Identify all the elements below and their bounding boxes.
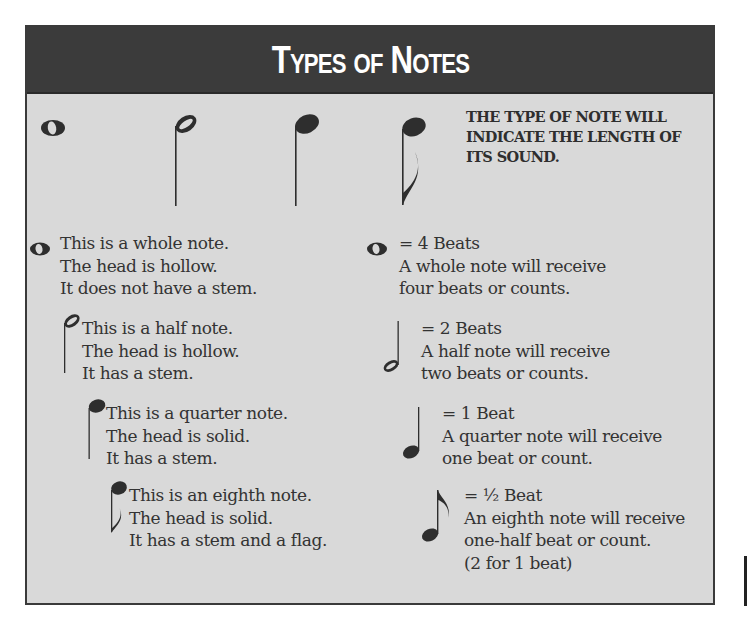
half-note-icon (383, 319, 403, 375)
whole-note-icon (40, 119, 66, 137)
half-note-value: = 2 Beats A half note will receive two b… (421, 317, 610, 385)
eighth-note-value: = ½ Beat An eighth note will receive one… (464, 484, 685, 574)
whole-note-value: = 4 Beats A whole note will receive four… (399, 232, 606, 300)
half-note-icon (173, 114, 199, 206)
notes-panel: Types of Notes The type of note will ind… (25, 25, 715, 605)
whole-note-description: This is a whole note. The head is hollow… (60, 232, 257, 300)
eighth-note-description: This is an eighth note. The head is soli… (129, 484, 327, 552)
quarter-note-icon (293, 114, 321, 206)
quarter-note-icon (403, 405, 423, 461)
caption-text: The type of note will indicate the lengt… (466, 107, 706, 167)
half-note-description: This is a half note. The head is hollow.… (82, 317, 239, 385)
title-bar: Types of Notes (27, 27, 713, 94)
eighth-note-icon (399, 117, 429, 207)
half-note-icon (62, 314, 82, 374)
quarter-note-icon (87, 399, 107, 461)
quarter-note-value: = 1 Beat A quarter note will receive one… (442, 402, 662, 470)
eighth-note-icon (109, 481, 129, 535)
page-title: Types of Notes (271, 41, 468, 79)
eighth-note-icon (422, 488, 454, 544)
whole-note-icon (29, 242, 51, 256)
whole-note-icon (366, 242, 388, 256)
quarter-note-description: This is a quarter note. The head is soli… (106, 402, 288, 470)
